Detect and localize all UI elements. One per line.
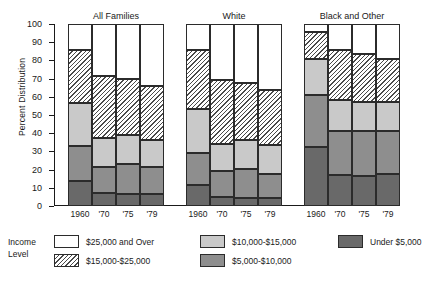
legend-swatch-10to15 bbox=[200, 235, 225, 248]
bar[interactable] bbox=[92, 24, 116, 206]
bar-segment-25000-and-over bbox=[234, 24, 258, 83]
y-tick: 30 bbox=[49, 151, 54, 152]
bar-segment-5000-10000 bbox=[68, 146, 92, 181]
bar-segment-5000-10000 bbox=[210, 171, 234, 196]
bar-segment-25000-and-over bbox=[210, 24, 234, 80]
bar-segment-15000-25000 bbox=[376, 59, 400, 103]
bar-segment-15000-25000 bbox=[92, 76, 116, 138]
bar-segment-25000-and-over bbox=[68, 24, 92, 50]
y-tick-label: 10 bbox=[32, 183, 42, 193]
y-tick-label: 70 bbox=[32, 74, 42, 84]
legend-item-15to25[interactable]: $15,000-$25,000 bbox=[54, 254, 150, 267]
bar[interactable] bbox=[352, 24, 376, 206]
bar-segment-under-5000 bbox=[210, 197, 234, 206]
bar-segment-5000-10000 bbox=[140, 167, 164, 194]
y-tick: 0 bbox=[49, 206, 54, 207]
plot-area: 0102030405060708090100 All Families1960'… bbox=[54, 24, 384, 206]
bar-segment-under-5000 bbox=[376, 174, 400, 206]
y-tick-label: 50 bbox=[32, 110, 42, 120]
bar-segment-under-5000 bbox=[352, 176, 376, 206]
bar[interactable] bbox=[234, 24, 258, 206]
bar-segment-5000-10000 bbox=[304, 95, 328, 147]
bars bbox=[68, 24, 164, 206]
y-tick: 10 bbox=[49, 188, 54, 189]
bar-segment-10000-15000 bbox=[376, 102, 400, 131]
bar-segment-25000-and-over bbox=[116, 24, 140, 79]
legend-swatch-5to10 bbox=[200, 254, 225, 267]
x-tick-label: '70 bbox=[92, 209, 116, 219]
x-tick-label: 1960 bbox=[68, 209, 92, 219]
bar-segment-15000-25000 bbox=[210, 80, 234, 144]
y-tick-label: 100 bbox=[27, 19, 42, 29]
y-tick: 70 bbox=[49, 79, 54, 80]
bar-segment-under-5000 bbox=[68, 181, 92, 206]
bar-segment-15000-25000 bbox=[328, 50, 352, 99]
legend-title-line2: Level bbox=[8, 248, 36, 260]
bar-segment-under-5000 bbox=[140, 194, 164, 206]
bars bbox=[186, 24, 282, 206]
bar-segment-5000-10000 bbox=[116, 164, 140, 194]
y-tick: 40 bbox=[49, 133, 54, 134]
x-tick-label: '70 bbox=[328, 209, 352, 219]
bar[interactable] bbox=[376, 24, 400, 206]
bar[interactable] bbox=[258, 24, 282, 206]
bar-segment-25000-and-over bbox=[352, 24, 376, 54]
bar-segment-25000-and-over bbox=[328, 24, 352, 50]
y-tick-label: 30 bbox=[32, 146, 42, 156]
legend-title: Income Level bbox=[8, 236, 36, 260]
bar-segment-5000-10000 bbox=[258, 174, 282, 198]
bar[interactable] bbox=[116, 24, 140, 206]
bar-segment-10000-15000 bbox=[68, 103, 92, 146]
y-tick: 100 bbox=[49, 24, 54, 25]
bar[interactable] bbox=[186, 24, 210, 206]
y-tick: 60 bbox=[49, 97, 54, 98]
bar-segment-under-5000 bbox=[116, 194, 140, 206]
legend-item-10to15[interactable]: $10,000-$15,000 bbox=[200, 235, 296, 248]
bar-segment-under-5000 bbox=[328, 175, 352, 206]
legend-title-line1: Income bbox=[8, 237, 36, 247]
x-tick-label: 1960 bbox=[186, 209, 210, 219]
bar[interactable] bbox=[68, 24, 92, 206]
x-tick-label: '79 bbox=[376, 209, 400, 219]
x-tick-label: '75 bbox=[352, 209, 376, 219]
legend-item-under5[interactable]: Under $5,000 bbox=[338, 235, 422, 248]
y-tick-label: 80 bbox=[32, 55, 42, 65]
bar-segment-10000-15000 bbox=[116, 135, 140, 164]
bar[interactable] bbox=[328, 24, 352, 206]
bar-segment-10000-15000 bbox=[352, 102, 376, 131]
bar-segment-under-5000 bbox=[304, 147, 328, 206]
bar-segment-10000-15000 bbox=[234, 140, 258, 168]
bar-segment-5000-10000 bbox=[234, 169, 258, 198]
bar-segment-10000-15000 bbox=[328, 100, 352, 132]
bar-segment-5000-10000 bbox=[186, 153, 210, 185]
legend-item-5to10[interactable]: $5,000-$10,000 bbox=[200, 254, 292, 267]
x-tick-label: '75 bbox=[234, 209, 258, 219]
x-tick-label: '79 bbox=[258, 209, 282, 219]
bar-segment-5000-10000 bbox=[92, 167, 116, 193]
bar-segment-10000-15000 bbox=[304, 59, 328, 94]
group-title: White bbox=[186, 11, 282, 21]
legend-item-over25[interactable]: $25,000 and Over bbox=[54, 235, 154, 248]
bar-segment-under-5000 bbox=[186, 185, 210, 206]
bars bbox=[304, 24, 400, 206]
group-title: All Families bbox=[68, 11, 164, 21]
x-axis-labels: 1960'70'75'79 bbox=[68, 209, 164, 219]
bar-segment-5000-10000 bbox=[376, 131, 400, 174]
bar-segment-under-5000 bbox=[258, 198, 282, 206]
bar-segment-10000-15000 bbox=[258, 145, 282, 174]
bar-segment-15000-25000 bbox=[304, 32, 328, 59]
x-axis-labels: 1960'70'75'79 bbox=[186, 209, 282, 219]
x-tick-label: '75 bbox=[116, 209, 140, 219]
y-tick: 80 bbox=[49, 60, 54, 61]
bar-segment-5000-10000 bbox=[352, 131, 376, 176]
group-title: Black and Other bbox=[304, 11, 400, 21]
y-tick: 20 bbox=[49, 170, 54, 171]
bar[interactable] bbox=[210, 24, 234, 206]
bar-segment-10000-15000 bbox=[210, 144, 234, 171]
bar[interactable] bbox=[140, 24, 164, 206]
bar[interactable] bbox=[304, 24, 328, 206]
bar-segment-25000-and-over bbox=[186, 24, 210, 50]
y-tick-label: 40 bbox=[32, 128, 42, 138]
bar-segment-under-5000 bbox=[92, 193, 116, 206]
